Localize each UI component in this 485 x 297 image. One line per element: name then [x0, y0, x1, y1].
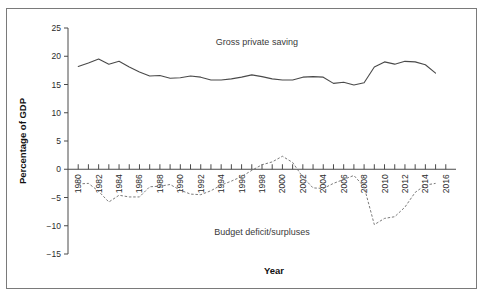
chart-figure: 2520151050−5−10−151980198219841986198819…: [0, 0, 485, 297]
x-tick-label: 2008: [359, 174, 369, 193]
y-tick-label: 20: [52, 51, 62, 61]
y-tick-label: 5: [56, 136, 61, 146]
y-tick-label: −10: [47, 221, 62, 231]
chart-plot-area: 2520151050−5−10−151980198219841986198819…: [0, 0, 485, 297]
y-axis-title: Percentage of GDP: [17, 97, 28, 184]
x-tick-label: 2014: [420, 174, 430, 193]
x-tick-label: 1988: [155, 174, 165, 193]
x-tick-label: 2006: [339, 174, 349, 193]
x-tick-label: 2000: [277, 174, 287, 193]
series-line-gross-private-saving: [78, 59, 435, 85]
x-tick-label: 2012: [400, 174, 410, 193]
x-tick-label: 1986: [134, 174, 144, 193]
x-tick-label: 1982: [94, 174, 104, 193]
y-tick-label: −15: [47, 249, 62, 259]
x-tick-label: 1984: [114, 174, 124, 193]
x-tick-label: 1998: [257, 174, 267, 193]
chart-annotation-2: Budget deficit/surpluses: [214, 227, 310, 237]
y-tick-label: 10: [52, 108, 62, 118]
y-tick-label: −5: [51, 193, 61, 203]
x-tick-label: 1992: [196, 174, 206, 193]
x-axis-title: Year: [264, 265, 284, 276]
x-tick-label: 2004: [318, 174, 328, 193]
x-tick-label: 1996: [237, 174, 247, 193]
y-tick-label: 25: [52, 23, 62, 33]
y-tick-label: 0: [56, 164, 61, 174]
chart-annotation-1: Gross private saving: [216, 37, 298, 47]
y-tick-label: 15: [52, 80, 62, 90]
x-tick-label: 2010: [380, 174, 390, 193]
x-tick-label: 2016: [441, 174, 451, 193]
